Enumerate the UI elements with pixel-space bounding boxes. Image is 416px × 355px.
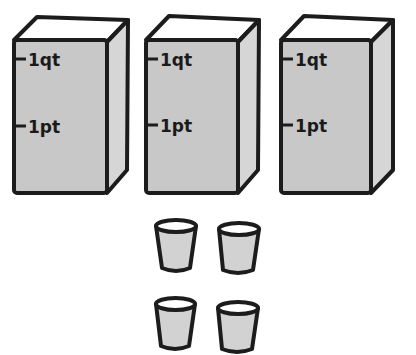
cup-rim xyxy=(219,223,259,235)
cup-1 xyxy=(156,220,196,271)
cup-rim xyxy=(156,220,196,232)
carton-side-face xyxy=(371,20,393,193)
quart-label: 1qt xyxy=(160,50,192,70)
carton-3: 1qt 1pt xyxy=(281,16,393,193)
carton-2: 1qt 1pt xyxy=(146,16,259,193)
cup-3 xyxy=(156,298,195,349)
pint-label: 1pt xyxy=(160,116,192,136)
measurement-illustration: 1qt 1pt 1qt 1pt 1qt 1pt xyxy=(0,0,416,355)
carton-1: 1qt 1pt xyxy=(14,17,128,193)
cup-rim xyxy=(218,302,258,314)
quart-label: 1qt xyxy=(28,50,60,70)
carton-side-face xyxy=(238,20,259,193)
pint-label: 1pt xyxy=(28,117,60,137)
cup-4 xyxy=(218,302,258,352)
carton-side-face xyxy=(107,20,128,193)
cup-rim xyxy=(156,298,195,310)
quart-label: 1qt xyxy=(295,50,327,70)
pint-label: 1pt xyxy=(295,116,327,136)
cup-2 xyxy=(219,223,259,273)
